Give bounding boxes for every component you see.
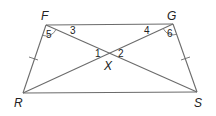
tick-mark-fr [29, 57, 38, 60]
angle-label-3: 3 [70, 25, 76, 36]
segment-fg [46, 24, 173, 25]
segment-rs [23, 92, 197, 93]
vertex-label-g: G [167, 9, 176, 23]
angle-label-4: 4 [144, 25, 150, 36]
trapezoid-diagram: F G R S X 5 3 4 6 1 2 [0, 0, 216, 116]
vertex-label-f: F [41, 9, 49, 23]
vertex-label-r: R [14, 96, 23, 110]
angle-label-6: 6 [167, 28, 173, 39]
vertex-label-x: X [103, 59, 113, 73]
vertex-label-s: S [194, 96, 202, 110]
angle-label-5: 5 [46, 29, 52, 40]
angle-label-1: 1 [95, 48, 101, 59]
angle-label-2: 2 [118, 48, 124, 59]
